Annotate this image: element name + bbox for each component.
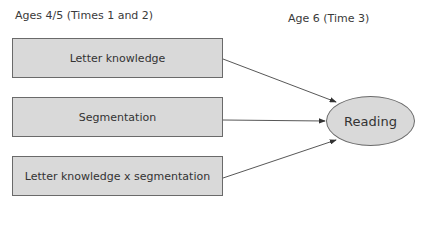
arrow-segmentation xyxy=(223,120,325,121)
node-label: Reading xyxy=(344,114,397,129)
arrow-letter-knowledge xyxy=(223,59,336,102)
arrow-interaction xyxy=(223,140,336,178)
reading-node: Reading xyxy=(326,96,415,146)
